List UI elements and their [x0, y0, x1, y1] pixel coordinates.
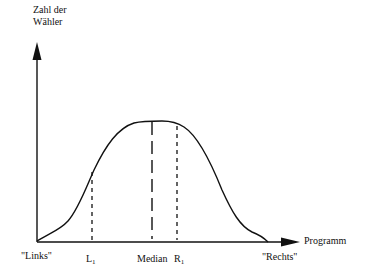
y-axis-label: Zahl der Wähler: [33, 4, 67, 28]
median-label: Median: [137, 253, 168, 265]
left-end-label: "Links": [21, 250, 52, 262]
r1-label-main: R: [174, 253, 181, 264]
r1-label: R1: [174, 253, 184, 268]
x-axis-label: Programm: [304, 235, 346, 247]
right-end-label: "Rechts": [262, 251, 297, 263]
voter-distribution-diagram: [0, 0, 367, 275]
l1-label: L1: [86, 253, 96, 268]
r1-label-sub: 1: [181, 258, 185, 266]
x-axis-arrowhead-icon: [281, 238, 300, 247]
l1-label-sub: 1: [92, 258, 96, 266]
y-axis-label-line1: Zahl der: [33, 4, 67, 16]
y-axis-label-line2: Wähler: [33, 16, 67, 28]
y-axis-arrowhead-icon: [33, 42, 42, 60]
